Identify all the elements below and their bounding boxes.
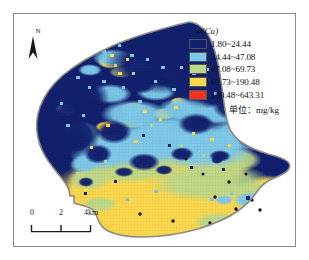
- legend-label-class-3: 47.08~69.73: [211, 64, 255, 74]
- scale-bar-graphic: [30, 224, 100, 233]
- legend-swatch-class-1: [189, 39, 207, 49]
- sample-point[interactable]: [213, 195, 216, 198]
- scale-tick-1: 2: [59, 208, 63, 217]
- legend-item-class-3[interactable]: 47.08~69.73: [189, 63, 287, 76]
- legend-swatch-class-5: [189, 90, 207, 100]
- sample-point[interactable]: [185, 158, 188, 161]
- legend-label-class-1: 1.80~24.44: [211, 39, 251, 49]
- legend-item-class-1[interactable]: 1.80~24.44: [189, 38, 287, 51]
- scale-bar-labels: 0 2 4km: [30, 208, 112, 219]
- sample-point[interactable]: [171, 219, 174, 222]
- sample-point[interactable]: [234, 207, 237, 210]
- sample-point[interactable]: [245, 173, 248, 176]
- legend-item-class-4[interactable]: 69.73~190.48: [189, 76, 287, 89]
- map-figure: N 0 2 4km w(Cu) 1.80~24.44: [0, 0, 309, 260]
- scale-tick-0: 0: [30, 208, 34, 217]
- legend-label-class-5: 190.48~643.31: [211, 90, 264, 100]
- legend-label-class-2: 24.44~47.08: [211, 52, 255, 62]
- legend: w(Cu) 1.80~24.44 24.44~47.08 47.08~69.73…: [189, 26, 287, 116]
- north-arrow-icon: [26, 36, 40, 60]
- sample-point[interactable]: [258, 208, 261, 211]
- north-arrow-label: N: [26, 27, 50, 35]
- sample-point[interactable]: [202, 173, 205, 176]
- figure-frame: N 0 2 4km w(Cu) 1.80~24.44: [13, 13, 296, 247]
- legend-label-class-4: 69.73~190.48: [211, 77, 260, 87]
- sample-point[interactable]: [227, 180, 230, 183]
- scale-tick-2: 4km: [84, 208, 98, 217]
- legend-swatch-class-4: [189, 77, 207, 87]
- scale-bar: 0 2 4km: [30, 208, 112, 234]
- legend-unit-text: 单位：mg/kg: [189, 103, 287, 116]
- legend-item-class-2[interactable]: 24.44~47.08: [189, 51, 287, 64]
- sample-point[interactable]: [138, 212, 141, 215]
- legend-swatch-class-2: [189, 52, 207, 62]
- legend-item-class-5[interactable]: 190.48~643.31: [189, 88, 287, 101]
- legend-title: w(Cu): [195, 26, 287, 36]
- legend-swatch-class-3: [189, 64, 207, 74]
- north-arrow: N: [26, 27, 50, 61]
